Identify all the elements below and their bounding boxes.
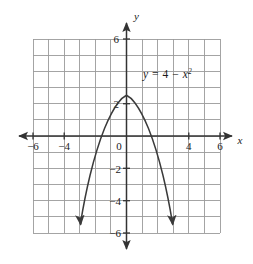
y-tick-label--6: −6 [109,227,121,239]
x-tick-label-6: 6 [217,140,223,152]
equation-annotation: y=4−x2 [142,67,192,81]
x-tick-label-4: 4 [186,140,192,152]
equation-minus: − [172,68,179,80]
equation-constant: 4 [163,68,169,80]
equation-text-group: y=4−x2 [142,67,192,81]
axes [19,23,232,249]
x-axis-label: x [237,134,243,146]
y-tick-label--4: −4 [109,195,121,207]
x-tick-label-0: 0 [116,140,122,152]
parabola-left-arrow [80,219,81,225]
x-tick-label--6: −6 [27,140,39,152]
graph-figure: −6 −4 0 4 6 6 2 −2 −4 −6 x y y=4−x2 [0,0,253,264]
x-tick-label--4: −4 [58,140,70,152]
parabola-right-arrow [172,219,173,225]
equation-exponent: 2 [188,67,192,76]
y-tick-label--2: −2 [109,163,121,175]
equation-lhs: y [142,68,149,81]
y-tick-label-6: 6 [114,33,120,45]
y-axis-label: y [133,10,139,22]
coordinate-plane-svg: −6 −4 0 4 6 6 2 −2 −4 −6 x y y=4−x2 [0,0,253,264]
equation-equals: = [152,68,159,80]
